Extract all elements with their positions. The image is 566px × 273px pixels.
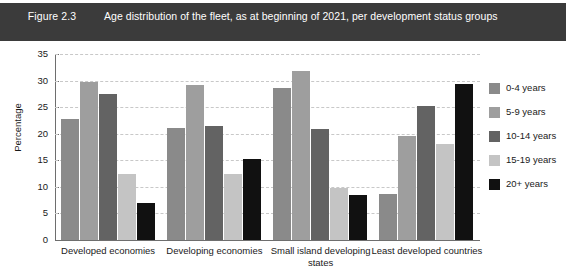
x-axis-line — [55, 240, 480, 241]
legend-color-swatch — [489, 179, 500, 190]
bar — [118, 174, 136, 240]
bar-group — [167, 54, 262, 240]
legend-item: 5-9 years — [489, 100, 566, 124]
y-axis-tick-label: 25 — [22, 102, 48, 112]
legend-item: 20+ years — [489, 172, 566, 196]
bar — [417, 106, 435, 240]
y-axis-tick-label: 15 — [22, 155, 48, 165]
bar — [311, 129, 329, 240]
bar-group — [61, 54, 156, 240]
figure-container: Figure 2.3 Age distribution of the fleet… — [0, 0, 566, 273]
y-axis-tick-label: 30 — [22, 76, 48, 86]
x-axis-group-label: Least developed countries — [368, 245, 486, 257]
plot-area — [55, 54, 480, 240]
legend-color-swatch — [489, 155, 500, 166]
x-axis-group-label: Developing economies — [155, 245, 273, 257]
legend-item-label: 5-9 years — [506, 107, 546, 117]
legend-item: 10-14 years — [489, 124, 566, 148]
y-axis-tick-labels: 05101520253035 — [14, 54, 48, 240]
bar — [224, 174, 242, 240]
bar — [186, 85, 204, 240]
bar — [379, 194, 397, 240]
bar — [61, 119, 79, 240]
legend-item-label: 10-14 years — [506, 131, 556, 141]
y-axis-tick-label: 5 — [22, 208, 48, 218]
legend-item-label: 15-19 years — [506, 155, 556, 165]
legend-item-label: 20+ years — [506, 179, 548, 189]
bar — [349, 195, 367, 240]
bar — [167, 128, 185, 240]
y-axis-tick-label: 35 — [22, 49, 48, 59]
legend-item: 15-19 years — [489, 148, 566, 172]
bar — [398, 136, 416, 240]
legend-item-label: 0-4 years — [506, 83, 546, 93]
bar — [243, 159, 261, 240]
bar-group — [273, 54, 368, 240]
bar — [436, 144, 454, 240]
x-axis-group-label: Developed economies — [49, 245, 167, 257]
y-axis-tick-label: 10 — [22, 182, 48, 192]
bar — [455, 84, 473, 240]
bar — [137, 203, 155, 240]
legend-color-swatch — [489, 131, 500, 142]
bar — [330, 188, 348, 240]
y-axis-tick-label: 0 — [22, 235, 48, 245]
bar-group — [379, 54, 474, 240]
figure-number-label: Figure 2.3 — [0, 10, 104, 23]
bar — [292, 71, 310, 240]
x-axis-group-label: Small island developing states — [262, 245, 380, 268]
figure-header-banner: Figure 2.3 Age distribution of the fleet… — [0, 3, 566, 41]
legend-item: 0-4 years — [489, 76, 566, 100]
y-axis-tick-label: 20 — [22, 129, 48, 139]
bar — [273, 88, 291, 240]
bar — [205, 126, 223, 240]
bar — [80, 82, 98, 240]
bar — [99, 94, 117, 240]
chart-legend: 0-4 years5-9 years10-14 years15-19 years… — [489, 76, 566, 196]
legend-color-swatch — [489, 107, 500, 118]
legend-color-swatch — [489, 83, 500, 94]
figure-title: Age distribution of the fleet, as at beg… — [104, 10, 558, 23]
